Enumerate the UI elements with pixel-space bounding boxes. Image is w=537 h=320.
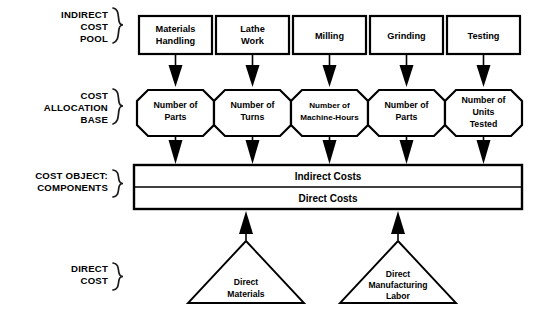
allocation-base-label: Turns [241,112,265,122]
row-label-line: POOL [80,33,108,44]
row-label-cost-object-components: COST OBJECT: COMPONENTS [35,170,123,197]
brace-icon [113,263,123,290]
brace-icon [113,8,123,43]
allocation-base-label: Tested [470,119,498,129]
arrow-direct-materials-to-object [239,211,253,240]
cost-pool-label: Testing [468,31,500,41]
arrow-pool-to-base-2 [246,54,260,87]
arrow-pool-to-base-5 [477,54,491,87]
direct-cost-label: Manufacturing [368,280,427,290]
arrow-base-to-object-3 [323,136,337,164]
row-label-line: COST OBJECT: [35,170,108,181]
allocation-base-label: Machine-Hours [300,113,359,122]
arrow-direct-labor-to-object [391,211,405,240]
direct-cost-label: Labor [386,291,411,301]
cost-pool-box[interactable] [139,16,212,54]
cost-pool-label: Lathe [240,24,265,34]
brace-icon [113,89,123,124]
cost-pool-label: Grinding [387,31,425,41]
allocation-base-label: Number of [231,100,275,110]
allocation-base-label: Number of [385,100,429,110]
cost-pool-label: Materials [156,24,196,34]
row-label-line: COMPONENTS [37,182,108,193]
cost-pool-box[interactable] [216,16,289,54]
arrow-base-to-object-1 [169,136,183,164]
cost-object-bar-label-direct: Direct Costs [299,193,358,204]
direct-cost-direct-materials[interactable]: Direct Materials [188,241,304,303]
brace-icon [113,170,123,197]
row-label-line: COST [81,21,108,32]
allocation-base-label: Parts [164,112,186,122]
arrow-base-to-object-2 [246,136,260,164]
cost-pool-grinding[interactable]: Grinding [370,16,443,54]
row-label-line: ALLOCATION [44,102,108,113]
allocation-base-number-of-turns[interactable]: Number of Turns [214,90,291,136]
direct-cost-label: Direct [234,277,258,287]
row-label-line: COST [81,275,108,286]
cost-allocation-diagram: INDIRECT COST POOL COST ALLOCATION BASE … [0,0,537,320]
cost-pool-label: Work [241,36,265,46]
arrow-pool-to-base-3 [323,54,337,87]
cost-pool-milling[interactable]: Milling [293,16,366,54]
row-label-direct-cost: DIRECT COST [71,263,123,290]
direct-cost-label: Materials [227,289,264,299]
allocation-base-number-of-units-tested[interactable]: Number of Units Tested [445,90,522,136]
allocation-base-label: Number of [154,100,198,110]
allocation-base-label: Units [473,107,495,117]
allocation-base-number-of-parts-1[interactable]: Number of Parts [137,90,214,136]
arrow-pool-to-base-1 [169,54,183,87]
cost-pool-label: Milling [315,31,344,41]
row-label-line: DIRECT [71,263,108,274]
row-label-line: BASE [81,114,109,125]
cost-object-bar-label-indirect: Indirect Costs [295,171,362,182]
allocation-base-number-of-machine-hours[interactable]: Number of Machine-Hours [291,90,368,136]
diagram-canvas: INDIRECT COST POOL COST ALLOCATION BASE … [0,0,537,320]
row-label-indirect-cost-pool: INDIRECT COST POOL [61,8,123,44]
direct-cost-label: Direct [386,269,410,279]
allocation-base-label: Parts [395,112,417,122]
allocation-base-label: Number of [309,101,350,110]
arrow-base-to-object-5 [477,136,491,164]
row-label-line: COST [81,90,108,101]
allocation-base-label: Number of [462,95,506,105]
row-label-line: INDIRECT [61,9,108,20]
allocation-base-number-of-parts-2[interactable]: Number of Parts [368,90,445,136]
direct-cost-direct-manufacturing-labor[interactable]: Direct Manufacturing Labor [340,241,456,303]
cost-pool-materials-handling[interactable]: Materials Handling [139,16,212,54]
arrow-pool-to-base-4 [400,54,414,87]
cost-pool-lathe-work[interactable]: Lathe Work [216,16,289,54]
cost-object-bar-group: Indirect Costs Direct Costs [134,165,522,209]
arrow-base-to-object-4 [400,136,414,164]
cost-pool-label: Handling [156,36,195,46]
cost-pool-testing[interactable]: Testing [447,16,520,54]
row-label-cost-allocation-base: COST ALLOCATION BASE [44,89,123,125]
